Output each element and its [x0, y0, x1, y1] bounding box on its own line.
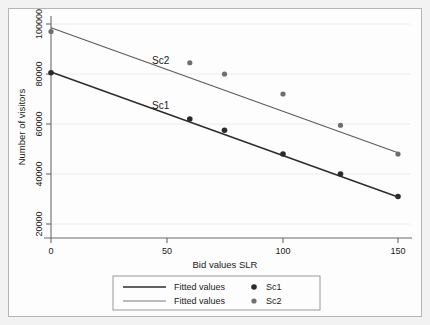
legend-marker-label-sc1: Sc1: [266, 282, 282, 292]
x-tick-label: 50: [162, 246, 172, 256]
data-point: [338, 171, 344, 177]
data-point: [222, 71, 227, 76]
y-tick-label: 20000: [34, 211, 44, 236]
legend-line-label-sc1: Fitted values: [174, 282, 226, 292]
y-axis-title: Number of visitors: [16, 88, 27, 165]
series-annotation-sc2: Sc2: [152, 55, 170, 66]
data-point: [280, 151, 286, 157]
legend-line-label-sc2: Fitted values: [174, 296, 226, 306]
chart-canvas: 100000 80000 60000 40000 20000 Number of…: [0, 0, 430, 325]
data-point: [338, 123, 343, 128]
x-axis: [44, 238, 412, 243]
legend: Fitted values Sc1 Fitted values Sc2: [113, 276, 320, 310]
data-point: [48, 70, 54, 76]
series-points-sc2: [48, 29, 400, 157]
data-point: [187, 60, 192, 65]
x-tick-label: 150: [390, 246, 405, 256]
chart-figure: 100000 80000 60000 40000 20000 Number of…: [0, 0, 430, 325]
data-point: [280, 91, 285, 96]
y-tick-label: 80000: [34, 61, 44, 86]
series-annotation-sc1: Sc1: [152, 100, 170, 111]
x-tick-labels: 0 50 100 150: [48, 246, 405, 256]
y-tick-label: 60000: [34, 111, 44, 136]
y-axis: [46, 16, 51, 238]
legend-marker-sc2: [251, 298, 256, 303]
y-tick-label: 100000: [34, 9, 44, 39]
data-point: [187, 116, 193, 122]
y-tick-labels: 100000 80000 60000 40000 20000: [34, 9, 44, 237]
x-tick-label: 100: [275, 246, 290, 256]
legend-marker-label-sc2: Sc2: [266, 296, 282, 306]
data-point: [395, 194, 401, 200]
gridlines: [51, 24, 410, 224]
legend-marker-sc1: [251, 284, 257, 290]
x-tick-label: 0: [48, 246, 53, 256]
data-point: [48, 29, 53, 34]
data-point: [395, 151, 400, 156]
data-point: [222, 127, 228, 133]
y-tick-label: 40000: [34, 161, 44, 186]
x-axis-title: Bid values SLR: [193, 259, 258, 270]
